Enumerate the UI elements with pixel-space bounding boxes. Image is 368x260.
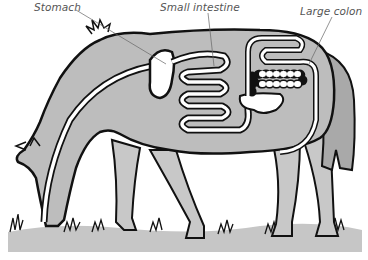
mane [86, 20, 110, 34]
stomach-organ [150, 50, 174, 98]
ground [8, 224, 362, 252]
horse-illustration [0, 0, 368, 260]
horse-digestive-diagram: Stomach Small intestine Large colon [0, 0, 368, 260]
label-small-intestine: Small intestine [160, 1, 240, 13]
label-stomach: Stomach [34, 1, 81, 13]
label-large-colon: Large colon [300, 5, 362, 17]
